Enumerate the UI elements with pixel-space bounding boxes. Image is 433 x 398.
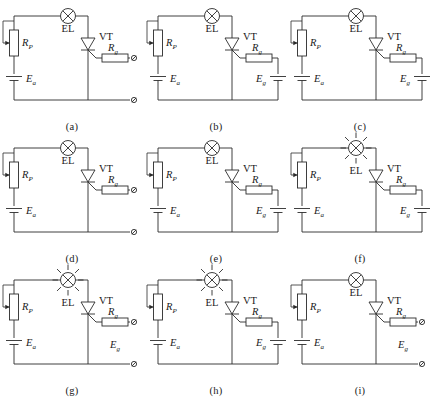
panel-caption-f: (f) [288, 253, 432, 264]
wiper-arrow-icon [293, 41, 297, 45]
potentiometer-body [298, 294, 307, 320]
panel-caption-b: (b) [144, 121, 288, 132]
circuit-figure-grid: RPEaELVTRg(a)RPEaELVTRgEg(b)RPEaELVTRgEg… [0, 0, 433, 398]
lamp-ray-icon [363, 155, 367, 159]
thyristor-triangle-icon [369, 38, 383, 50]
panel-caption-a: (a) [0, 121, 144, 132]
wire-gate [88, 314, 102, 322]
thyristor-label: VT [243, 163, 258, 174]
anode-supply-label: Ea [313, 205, 324, 219]
potentiometer-body [154, 162, 163, 188]
wiper-arrow-icon [149, 305, 153, 309]
potentiometer-label: RP [309, 301, 321, 315]
thyristor-triangle-icon [225, 302, 239, 314]
potentiometer-label: RP [21, 301, 33, 315]
lamp-label: EL [62, 297, 75, 308]
circuit-panel-f: RPEaELVTRgEg(f) [288, 132, 432, 264]
gate-supply-label: Eg [109, 339, 120, 353]
thyristor-triangle-icon [81, 170, 95, 182]
circuit-panel-b: RPEaELVTRgEg(b) [144, 0, 288, 132]
anode-supply-label: Ea [25, 337, 36, 351]
panel-caption-d: (d) [0, 253, 144, 264]
potentiometer-body [298, 30, 307, 56]
wiper-arrow-icon [5, 173, 9, 177]
circuit-panel-c: RPEaELVTRgEg(c) [288, 0, 432, 132]
lamp-ray-icon [201, 269, 205, 273]
lamp-ray-icon [57, 269, 61, 273]
wire-gate [376, 314, 390, 322]
gate-supply-label: Eg [255, 337, 266, 351]
thyristor-triangle-icon [225, 170, 239, 182]
wire-right-upper [272, 322, 278, 338]
wire-right-upper [272, 190, 278, 206]
schematic-d: RPEaELVTRg [0, 132, 144, 250]
lamp-ray-icon [75, 269, 79, 273]
anode-supply-label: Ea [313, 73, 324, 87]
schematic-c: RPEaELVTRgEg [288, 0, 432, 118]
circuit-panel-e: RPEaELVTRgEg(e) [144, 132, 288, 264]
wire-gate [376, 50, 390, 58]
lamp-ray-icon [219, 287, 223, 291]
gate-supply-label: Eg [399, 73, 410, 87]
anode-supply-label: Ea [313, 337, 324, 351]
lamp-ray-icon [345, 155, 349, 159]
wire-gate [232, 50, 246, 58]
thyristor-label: VT [243, 295, 258, 306]
lamp-ray-icon [57, 287, 61, 291]
panel-caption-h: (h) [144, 385, 288, 396]
circuit-panel-g: RPEaELVTRgEg(g) [0, 264, 144, 396]
potentiometer-body [154, 294, 163, 320]
potentiometer-label: RP [309, 169, 321, 183]
lamp-ray-icon [201, 287, 205, 291]
circuit-panel-i: RPEaELVTRgEg(i) [288, 264, 432, 396]
anode-supply-label: Ea [169, 205, 180, 219]
lamp-label: EL [350, 287, 363, 298]
wire-gate [232, 182, 246, 190]
wiper-arrow-icon [293, 305, 297, 309]
wire-gate [88, 50, 102, 58]
potentiometer-body [154, 30, 163, 56]
wire-gate [232, 314, 246, 322]
wire-right-upper [416, 190, 422, 206]
thyristor-label: VT [99, 31, 114, 42]
lamp-label: EL [206, 23, 219, 34]
schematic-h: RPEaELVTRgEg [144, 264, 288, 382]
thyristor-label: VT [387, 163, 402, 174]
potentiometer-body [298, 162, 307, 188]
anode-supply-label: Ea [169, 337, 180, 351]
lamp-label: EL [206, 155, 219, 166]
wiper-arrow-icon [5, 41, 9, 45]
wire-gate [88, 182, 102, 190]
potentiometer-label: RP [21, 37, 33, 51]
lamp-label: EL [350, 23, 363, 34]
schematic-g: RPEaELVTRgEg [0, 264, 144, 382]
thyristor-label: VT [243, 31, 258, 42]
potentiometer-label: RP [165, 169, 177, 183]
schematic-e: RPEaELVTRgEg [144, 132, 288, 250]
anode-supply-label: Ea [25, 205, 36, 219]
lamp-ray-icon [345, 137, 349, 141]
gate-supply-label: Eg [397, 339, 408, 353]
schematic-i: RPEaELVTRgEg [288, 264, 432, 382]
circuit-panel-a: RPEaELVTRg(a) [0, 0, 144, 132]
wire-right-upper [272, 58, 278, 74]
lamp-label: EL [62, 155, 75, 166]
lamp-ray-icon [363, 137, 367, 141]
thyristor-label: VT [99, 295, 114, 306]
panel-caption-c: (c) [288, 121, 432, 132]
wiper-arrow-icon [149, 173, 153, 177]
potentiometer-label: RP [309, 37, 321, 51]
wiper-arrow-icon [5, 305, 9, 309]
anode-supply-label: Ea [25, 73, 36, 87]
gate-supply-label: Eg [399, 205, 410, 219]
lamp-ray-icon [219, 269, 223, 273]
thyristor-triangle-icon [369, 170, 383, 182]
lamp-ray-icon [75, 287, 79, 291]
lamp-label: EL [206, 297, 219, 308]
thyristor-triangle-icon [369, 302, 383, 314]
schematic-b: RPEaELVTRgEg [144, 0, 288, 118]
schematic-a: RPEaELVTRg [0, 0, 144, 118]
wire-right-upper [416, 58, 422, 74]
thyristor-label: VT [99, 163, 114, 174]
gate-supply-label: Eg [255, 205, 266, 219]
